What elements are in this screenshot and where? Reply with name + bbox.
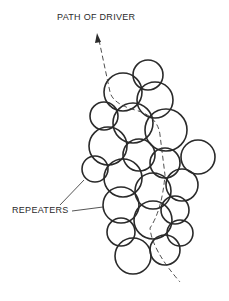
repeater-diagram (0, 0, 229, 301)
repeaters-leader-lower (72, 207, 103, 211)
repeaters-label: REPEATERS (12, 205, 69, 215)
repeater-circles (82, 60, 215, 274)
repeater-circle (150, 235, 180, 265)
repeater-circle (135, 173, 171, 209)
path-of-driver-label: PATH OF DRIVER (57, 12, 135, 22)
repeater-circle (133, 60, 163, 90)
arrow-head-icon (95, 33, 101, 43)
repeater-circle (115, 238, 151, 274)
repeaters-leader-upper (60, 180, 84, 205)
